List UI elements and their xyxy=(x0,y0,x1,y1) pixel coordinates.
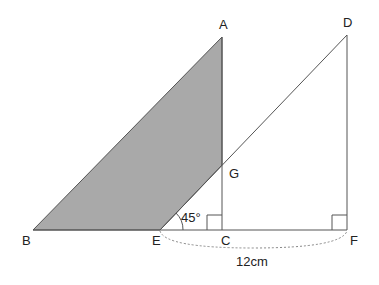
length-label: 12cm xyxy=(236,254,268,269)
point-label-b: B xyxy=(22,233,31,248)
point-label-a: A xyxy=(219,17,228,32)
angle-label: 45° xyxy=(181,210,201,225)
shaded-region-abeg xyxy=(33,37,222,230)
point-label-f: F xyxy=(350,233,358,248)
right-angle-mark-c xyxy=(207,215,222,230)
length-arc-ef xyxy=(160,231,347,248)
geometry-diagram: 45° 12cm A D B E C F G xyxy=(0,0,379,285)
point-label-c: C xyxy=(221,233,230,248)
right-angle-mark-f xyxy=(332,215,347,230)
point-label-g: G xyxy=(229,166,239,181)
point-label-d: D xyxy=(343,15,352,30)
point-label-e: E xyxy=(152,233,161,248)
